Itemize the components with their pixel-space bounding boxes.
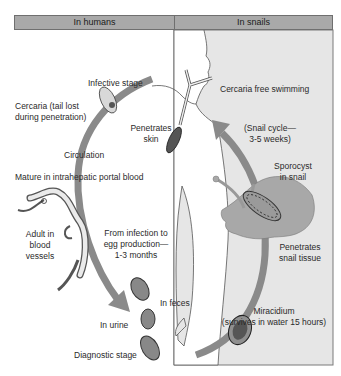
label-infective-stage: Infective stage bbox=[88, 78, 143, 88]
label-miracidium-2: (survives in water 15 hours) bbox=[216, 317, 332, 327]
adult-worm-female bbox=[18, 200, 44, 211]
label-miracidium-1: Miracidium bbox=[216, 306, 332, 316]
label-sporocyst-2: in snail bbox=[268, 172, 318, 182]
egg-diagnostic bbox=[137, 333, 164, 364]
label-circulation: Circulation bbox=[64, 150, 104, 160]
label-adult-2: blood bbox=[18, 240, 62, 250]
label-adult-3: vessels bbox=[18, 251, 62, 261]
label-from-infection-3: 1-3 months bbox=[98, 250, 174, 260]
label-snail-cycle-1: (Snail cycle— bbox=[238, 123, 302, 133]
header-in-snails: In snails bbox=[174, 15, 333, 30]
label-sporocyst-1: Sporocyst bbox=[268, 161, 318, 171]
label-snail-cycle-2: 3-5 weeks) bbox=[238, 134, 302, 144]
label-penetrates-skin-1: Penetrates bbox=[128, 123, 174, 133]
egg-urine bbox=[141, 309, 155, 329]
label-penetrates-snail-2: snail tissue bbox=[272, 253, 328, 263]
label-penetrates-skin-2: skin bbox=[128, 134, 174, 144]
label-mature: Mature in intrahepatic portal blood bbox=[15, 172, 144, 182]
label-in-feces: In feces bbox=[160, 298, 190, 308]
label-adult-1: Adult in bbox=[18, 229, 62, 239]
label-cercaria-free-swimming: Cercaria free swimming bbox=[220, 84, 309, 94]
label-penetrates-snail-1: Penetrates bbox=[272, 242, 328, 252]
schistosoma-life-cycle-diagram: In humans In snails Infective stage Cerc… bbox=[0, 0, 341, 376]
label-in-urine: In urine bbox=[100, 320, 128, 330]
egg-feces bbox=[127, 275, 153, 304]
label-cercaria-tail-lost-2: during penetration) bbox=[15, 112, 86, 122]
header-in-humans: In humans bbox=[14, 15, 175, 30]
label-from-infection-1: From infection to bbox=[98, 228, 174, 238]
label-diagnostic-stage: Diagnostic stage bbox=[74, 350, 137, 360]
label-cercaria-tail-lost-1: Cercaria (tail lost bbox=[15, 101, 79, 111]
label-from-infection-2: egg production— bbox=[98, 239, 174, 249]
